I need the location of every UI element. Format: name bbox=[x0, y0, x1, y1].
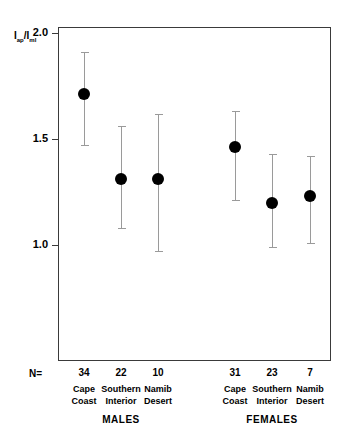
sample-size-value: 7 bbox=[275, 366, 345, 379]
data-point-marker[interactable] bbox=[266, 197, 278, 209]
category-name-line-1: Namib bbox=[123, 383, 193, 395]
y-axis-tick-label: 2.0 bbox=[33, 26, 48, 38]
category-name-line-2: Desert bbox=[123, 395, 193, 407]
category-name: NamibDesert bbox=[275, 383, 345, 407]
n-equals-label: N= bbox=[29, 368, 42, 379]
group-label: MALES bbox=[51, 414, 191, 425]
category-name: NamibDesert bbox=[123, 383, 193, 407]
category-column-label: 7NamibDesert bbox=[275, 366, 345, 407]
error-bar-cap-lower bbox=[307, 243, 315, 244]
error-bar-cap-lower bbox=[269, 247, 277, 248]
plot-area bbox=[58, 27, 331, 361]
y-axis-title-numerator-subscript: ap bbox=[17, 37, 24, 43]
error-bar-cap-upper bbox=[155, 114, 163, 115]
y-axis-tick-mark bbox=[52, 33, 59, 34]
group-label: FEMALES bbox=[202, 414, 342, 425]
error-bar-cap-lower bbox=[118, 228, 126, 229]
error-bar-cap-upper bbox=[307, 156, 315, 157]
y-axis-tick-mark bbox=[52, 139, 59, 140]
y-axis-tick-mark bbox=[52, 245, 59, 246]
y-axis-tick-label: 1.0 bbox=[33, 238, 48, 250]
error-bar-cap-upper bbox=[118, 126, 126, 127]
error-bar-cap-upper bbox=[232, 111, 240, 112]
category-name-line-2: Desert bbox=[275, 395, 345, 407]
category-column-label: 10NamibDesert bbox=[123, 366, 193, 407]
error-bar-cap-lower bbox=[155, 251, 163, 252]
error-bar-line bbox=[235, 111, 236, 200]
chart-figure: Iap/Iml 2.01.51.0 34CapeCoast22SouthernI… bbox=[0, 0, 349, 445]
category-name-line-1: Namib bbox=[275, 383, 345, 395]
error-bar-cap-lower bbox=[81, 145, 89, 146]
sample-size-value: 10 bbox=[123, 366, 193, 379]
error-bar-cap-upper bbox=[269, 154, 277, 155]
error-bar-cap-lower bbox=[232, 200, 240, 201]
error-bar-cap-upper bbox=[81, 52, 89, 53]
y-axis-tick-label: 1.5 bbox=[33, 132, 48, 144]
